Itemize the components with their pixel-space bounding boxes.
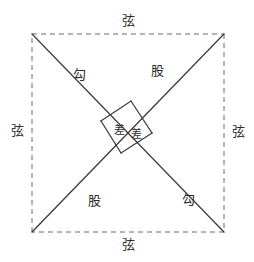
label-cha-right: 差 <box>131 129 142 140</box>
label-gou-lower-right: 勾 <box>182 193 195 206</box>
pinwheel-arms <box>101 101 152 153</box>
label-gu-lower-left: 股 <box>88 194 101 207</box>
gougu-diagram-svg <box>0 0 254 262</box>
label-xian-left: 弦 <box>11 124 24 137</box>
pinwheel-diagonals <box>32 34 224 232</box>
label-xian-right: 弦 <box>232 125 245 138</box>
gougu-figure: 弦 弦 弦 弦 勾 股 股 勾 差 差 <box>0 0 254 262</box>
label-gou-upper-left: 勾 <box>73 68 86 81</box>
arm-upper-left <box>101 101 131 121</box>
label-xian-top: 弦 <box>122 14 135 27</box>
label-cha-left: 差 <box>114 125 125 136</box>
label-xian-bottom: 弦 <box>122 238 135 251</box>
label-gu-upper-right: 股 <box>151 64 164 77</box>
